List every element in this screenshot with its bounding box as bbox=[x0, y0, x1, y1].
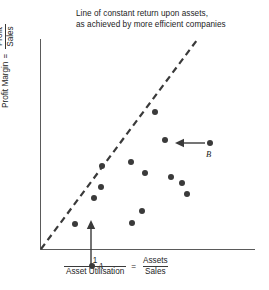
y-axis-label: Profit Margin = Profit Sales bbox=[0, 0, 16, 108]
y-axis-label-lead: Profit Margin bbox=[1, 62, 10, 108]
figure-title: Line of constant return upon assets, as … bbox=[76, 8, 266, 30]
figure-title-line-2: as achieved by more efficient companies bbox=[76, 19, 266, 30]
y-axis-fraction-denominator: Sales bbox=[5, 24, 15, 48]
plot-area: A B bbox=[40, 39, 255, 250]
x-axis-label-equation: 1 Asset Utilisation = Assets Sales bbox=[62, 257, 172, 277]
scatter-dot bbox=[152, 109, 158, 115]
left-arrow-icon bbox=[174, 136, 206, 150]
x-axis-right-fraction: Assets Sales bbox=[141, 257, 170, 277]
y-axis-fraction: Profit Sales bbox=[0, 24, 16, 48]
x-axis-equals-sign: = bbox=[131, 262, 136, 271]
scatter-dot bbox=[142, 170, 148, 176]
scatter-dot bbox=[184, 191, 190, 197]
x-axis-right-denominator: Sales bbox=[143, 266, 167, 276]
scatter-dot bbox=[98, 184, 104, 190]
x-axis-left-numerator: 1 bbox=[91, 257, 100, 266]
y-axis-equals-sign: = bbox=[1, 54, 10, 59]
scatter-dot bbox=[128, 159, 134, 165]
x-axis-right-numerator: Assets bbox=[141, 257, 170, 266]
scatter-dot bbox=[91, 195, 97, 201]
x-axis-label: 1 Asset Utilisation = Assets Sales bbox=[62, 256, 172, 277]
scatter-dot bbox=[72, 221, 78, 227]
scatter-dot bbox=[99, 163, 105, 169]
scatter-figure: Line of constant return upon assets, as … bbox=[0, 0, 269, 290]
scatter-dot bbox=[129, 220, 135, 226]
scatter-dot bbox=[168, 174, 174, 180]
scatter-dot bbox=[179, 180, 185, 186]
point-label-b: B bbox=[206, 149, 211, 159]
scatter-dot bbox=[207, 140, 213, 146]
scatter-dot bbox=[139, 208, 145, 214]
scatter-dot bbox=[162, 137, 168, 143]
trend-line-svg bbox=[40, 39, 255, 250]
figure-title-line-1: Line of constant return upon assets, bbox=[76, 8, 266, 19]
x-axis-left-denominator: Asset Utilisation bbox=[64, 266, 126, 276]
y-axis-label-equation: Profit Margin = Profit Sales bbox=[0, 22, 16, 108]
y-axis-label-wrapper: Profit Margin = Profit Sales bbox=[0, 60, 26, 210]
x-axis-left-fraction: 1 Asset Utilisation bbox=[64, 257, 126, 277]
